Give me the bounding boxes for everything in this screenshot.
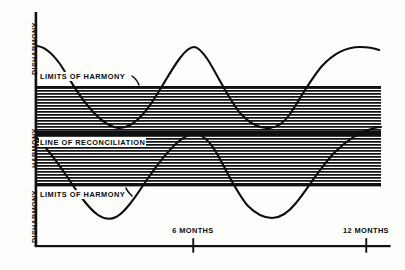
leader-limits-upper bbox=[132, 76, 139, 85]
x-axis-line bbox=[35, 245, 391, 247]
leader-limits-lower bbox=[126, 188, 132, 196]
limits-of-harmony-upper-line bbox=[36, 86, 381, 89]
annotation-limits-of-harmony-upper: LIMITS OF HARMONY bbox=[39, 72, 126, 81]
annotation-line-of-reconciliation: LINE OF RECONCILIATION bbox=[39, 138, 146, 147]
limits-of-harmony-lower-line bbox=[36, 184, 381, 187]
biorhythm-chart: DISHARMONY HARMONY DISHARMONY LIMITS OF … bbox=[0, 0, 405, 270]
annotation-limits-of-harmony-lower: LIMITS OF HARMONY bbox=[39, 190, 126, 199]
harmony-band-upper bbox=[36, 88, 381, 130]
x-tick-6-months bbox=[192, 238, 194, 253]
x-tick-12-months bbox=[365, 238, 367, 253]
x-tick-label-12-months: 12 MONTHS bbox=[336, 226, 396, 235]
x-tick-label-6-months: 6 MONTHS bbox=[165, 226, 221, 235]
line-of-reconciliation-band bbox=[36, 130, 381, 137]
y-label-disharmony-upper: DISHARMONY bbox=[30, 22, 39, 75]
y-label-harmony: HARMONY bbox=[30, 128, 39, 168]
y-label-disharmony-lower: DISHARMONY bbox=[30, 190, 39, 243]
